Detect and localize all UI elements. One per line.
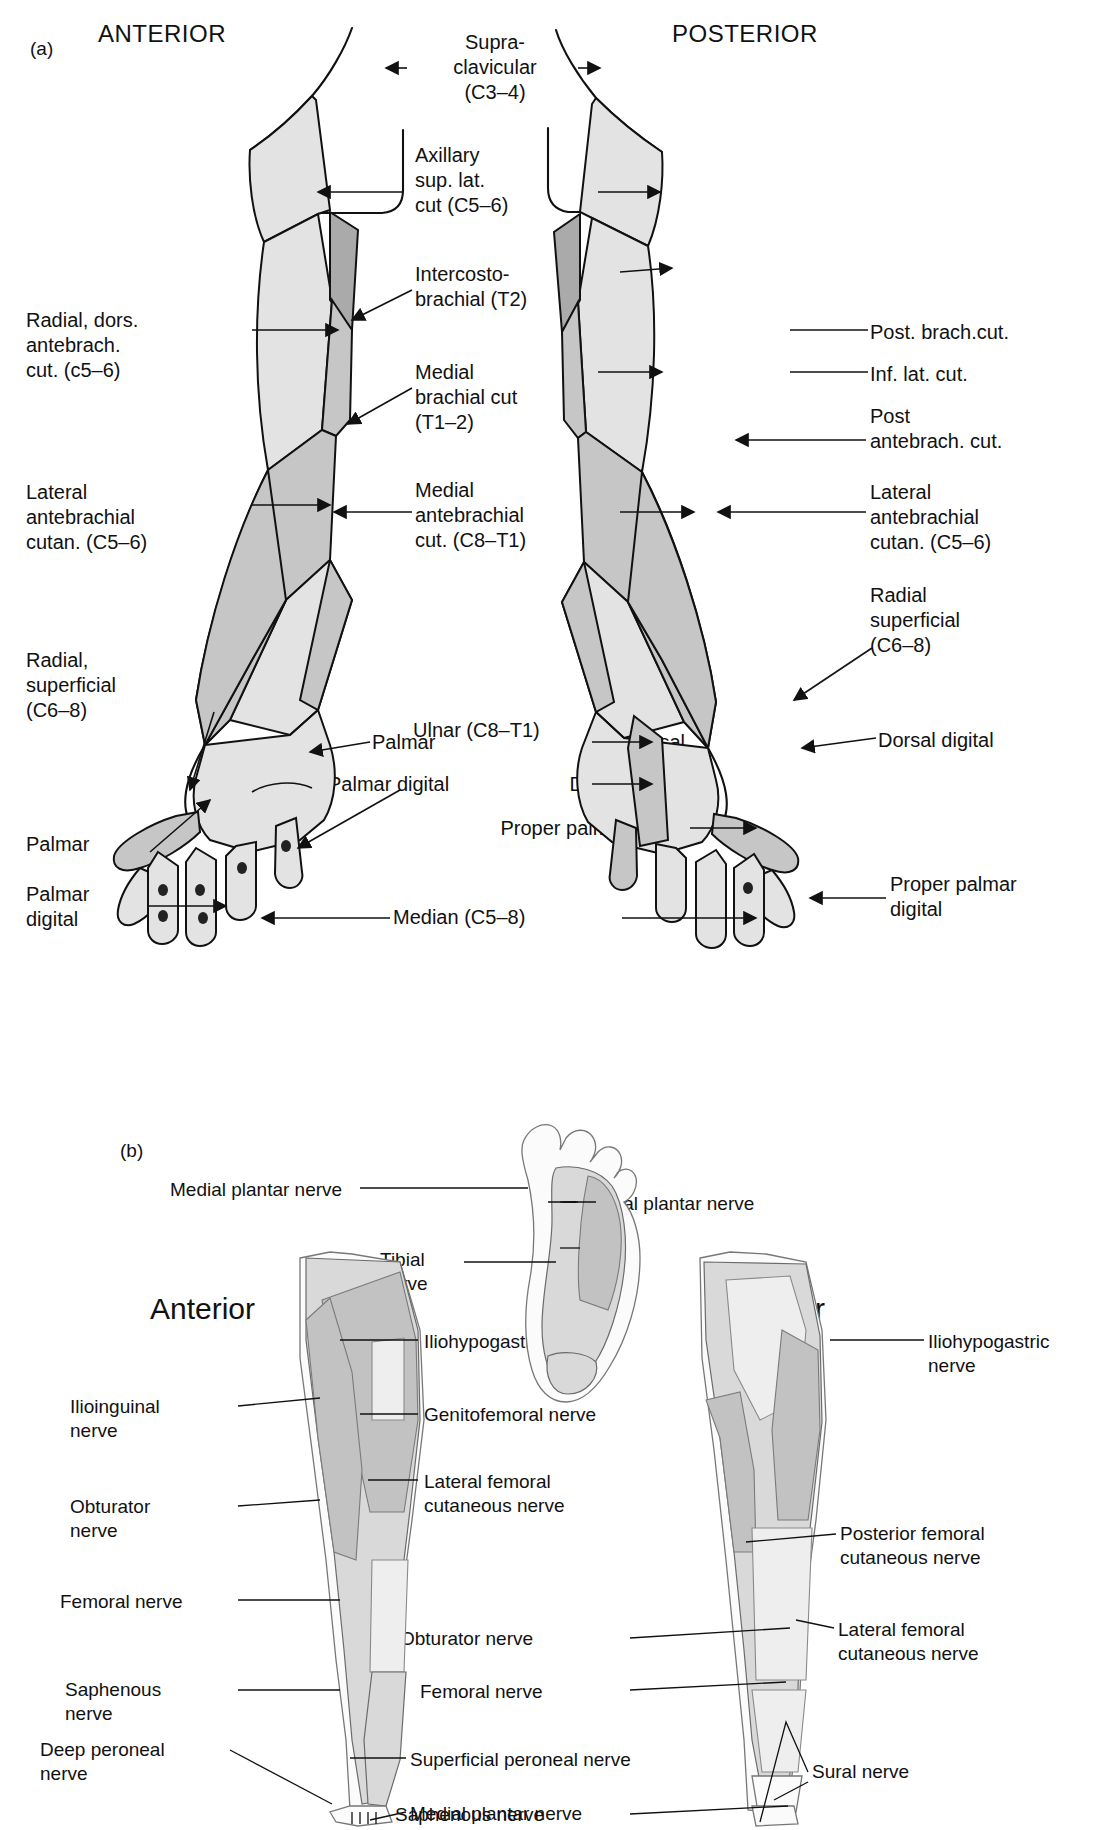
label-tibial-nerve-left: Tibial nerve (380, 1248, 460, 1296)
label-medial-plantar-nerve-foot: Medial plantar nerve (170, 1178, 356, 1202)
panel-a-caption: (a) (30, 38, 53, 60)
panel-a-heading-anterior: ANTERIOR (98, 20, 226, 48)
label-radial-dors-antebrach-cut: Radial, dors. antebrach. cut. (c5–6) (26, 308, 236, 383)
panel-b-heading-anterior: Anterior (150, 1292, 255, 1326)
label-iliohypogastric-nerve-anterior: Iliohypogastric nerve (424, 1330, 694, 1354)
label-inf-lat-cut: Inf. lat. cut. (870, 362, 1095, 387)
label-dorsal: Dorsal (560, 730, 685, 755)
label-lateral-antebrachial-cutan-right: Lateral antebrachial cutan. (C5–6) (870, 480, 1095, 555)
label-median: Median (C5–8) (393, 905, 613, 930)
label-proper-palmar-digital-right: Proper palmar digital (890, 872, 1090, 922)
panel-b-caption: (b) (120, 1140, 143, 1162)
label-femoral-nerve-anterior: Femoral nerve (60, 1590, 235, 1614)
label-radial-superficial: Radial, superficial (C6–8) (26, 648, 216, 723)
label-obturator-nerve-posterior: Obturator nerve (400, 1627, 625, 1651)
panel-a-heading-posterior: POSTERIOR (672, 20, 818, 48)
dermatome-nerve-diagram: (a) ANTERIOR POSTERIOR Supra- clavicular… (0, 0, 1101, 1830)
label-axillary: Axillary sup. lat. cut (C5–6) (415, 143, 605, 218)
label-supraclavicular: Supra- clavicular (C3–4) (415, 30, 575, 105)
label-lateral-femoral-cutaneous-nerve-posterior: Lateral femoral cutaneous nerve (838, 1618, 1088, 1666)
label-dorsal-digital: Dorsal digital (478, 772, 685, 797)
label-tibial-nerve-right: Tibial nerve (565, 1232, 655, 1280)
label-radial-superficial-right: Radial superficial (C6–8) (870, 583, 1060, 658)
label-obturator-nerve-anterior: Obturator nerve (70, 1495, 235, 1543)
anterior-leg-figure (300, 1252, 424, 1826)
label-post-antebrach-cut: Post antebrach. cut. (870, 404, 1095, 454)
label-post-brach-cut: Post. brach.cut. (870, 320, 1095, 345)
label-deep-peroneal-nerve: Deep peroneal nerve (40, 1738, 225, 1786)
label-palmar: Palmar (372, 730, 512, 755)
posterior-leg-figure (700, 1252, 826, 1826)
label-intercostobrachial: Intercosto- brachial (T2) (415, 262, 630, 312)
label-iliohypogastric-nerve-posterior: Iliohypogastric nerve (928, 1330, 1101, 1378)
label-ilioinguinal-nerve: Ilioinguinal nerve (70, 1395, 235, 1443)
label-saphenous-nerve-posterior: Saphenous nerve (395, 1803, 625, 1827)
label-lateral-antebrachial-cutan: Lateral antebrachial cutan. (C5–6) (26, 480, 246, 555)
label-proper-palmar-digital: Proper palmar digital (420, 816, 685, 841)
label-medial-brachial-cut: Medial brachial cut (T1–2) (415, 360, 615, 435)
label-femoral-nerve-posterior: Femoral nerve (420, 1680, 625, 1704)
panel-b-heading-posterior: Posterior (705, 1292, 825, 1326)
label-medial-antebrachial-cut: Medial antebrachial cut. (C8–T1) (415, 478, 615, 553)
label-superficial-peroneal-nerve-anterior: Superficial peroneal nerve (410, 1748, 730, 1772)
label-saphenous-nerve-anterior: Saphenous nerve (65, 1678, 235, 1726)
label-lateral-plantar-nerve: Lateral plantar nerve (580, 1192, 810, 1216)
label-dorsal-digital-right: Dorsal digital (878, 728, 1078, 753)
label-lateral-femoral-cutaneous-nerve-anterior: Lateral femoral cutaneous nerve (424, 1470, 684, 1518)
label-sural-nerve: Sural nerve (812, 1760, 992, 1784)
label-palmar-digital-left: Palmar digital (26, 882, 156, 932)
label-genitofemoral-nerve: Genitofemoral nerve (424, 1403, 694, 1427)
label-palmar-left: Palmar (26, 832, 156, 857)
label-posterior-femoral-cutaneous-nerve: Posterior femoral cutaneous nerve (840, 1522, 1090, 1570)
